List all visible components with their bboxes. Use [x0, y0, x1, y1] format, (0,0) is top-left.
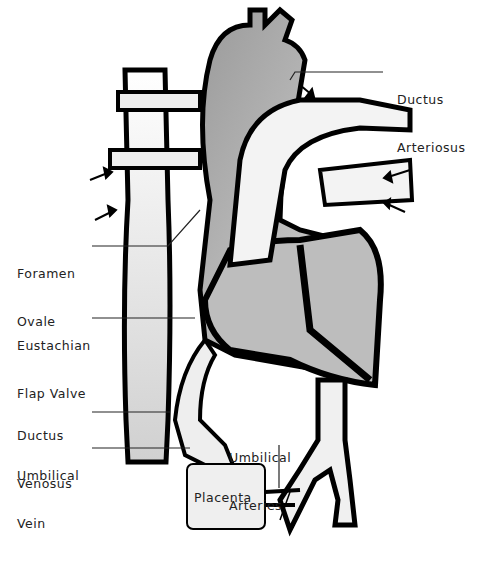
label-line: Ductus — [397, 92, 466, 108]
label-line: Umbilical — [17, 468, 79, 484]
label-placenta: Placenta — [194, 490, 252, 506]
label-line: Vein — [17, 516, 79, 532]
label-line: Umbilical — [229, 450, 291, 466]
label-line: Foramen — [17, 266, 75, 282]
label-line: Arteriosus — [397, 140, 466, 156]
umbilical-vein — [175, 340, 235, 470]
label-ductus-arteriosus: Ductus Arteriosus — [397, 60, 466, 172]
label-umbilical-vein: Umbilical Vein — [17, 436, 79, 548]
descending-aorta — [280, 380, 355, 530]
label-umbilical-arteries: Umbilical Arteries — [229, 418, 291, 530]
label-line: Eustachian — [17, 338, 91, 354]
